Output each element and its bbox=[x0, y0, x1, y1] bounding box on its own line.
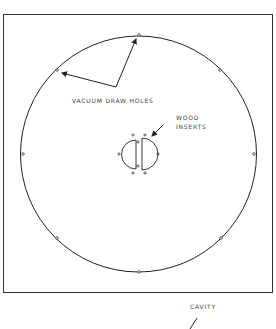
cavity-label: CAVITY bbox=[190, 303, 216, 310]
wood-inserts-label-line1: WOOD bbox=[176, 114, 199, 121]
vacuum-draw-holes-label: VACUUM DRAW HOLES bbox=[72, 97, 154, 104]
diagram-drawing bbox=[0, 0, 276, 329]
vacuum-holes bbox=[22, 34, 256, 274]
pointer-arrows bbox=[62, 39, 197, 329]
wood-inserts bbox=[122, 138, 159, 170]
wood-inserts-label-line2: INSERTS bbox=[176, 123, 207, 130]
